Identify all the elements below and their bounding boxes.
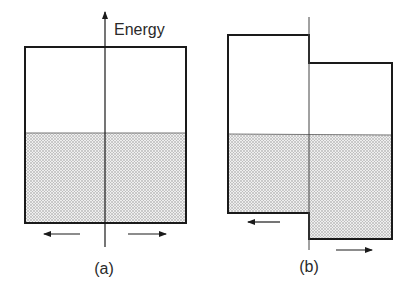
- panel-b-label: (b): [299, 258, 319, 275]
- panel-a-label: (a): [94, 260, 114, 277]
- energy-band-diagram: Energy (a) (b): [0, 0, 414, 300]
- filled-region-b-left: [228, 134, 309, 213]
- energy-axis-label: Energy: [114, 21, 165, 38]
- panel-b: (b): [228, 17, 392, 275]
- filled-region-b-right: [309, 135, 392, 239]
- panel-a: Energy (a): [25, 12, 186, 277]
